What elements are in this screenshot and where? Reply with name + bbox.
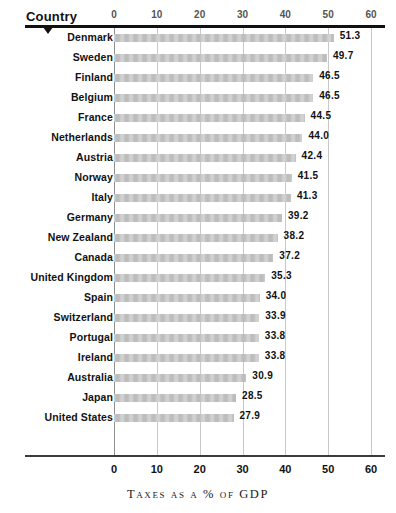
category-label: Finland [75,71,113,83]
bar-value-label: 33.9 [265,310,286,321]
bottom-tick-label-30: 30 [236,463,248,475]
chart-header: Country 0102030405060 [0,0,396,26]
bar [114,134,302,142]
bar-value-label: 41.3 [297,190,318,201]
bar-row: Italy41.3 [0,188,396,208]
bar [114,74,313,82]
bar [114,234,278,242]
category-label: Ireland [78,351,113,363]
category-label: Portugal [70,331,113,343]
bottom-tick-label-60: 60 [365,463,377,475]
bar-value-label: 42.4 [302,150,323,161]
bar-row: Norway41.5 [0,168,396,188]
bar-row: Netherlands44.0 [0,128,396,148]
category-label: Australia [67,371,113,383]
top-tick-label-60: 60 [365,9,376,20]
bottom-tick-label-10: 10 [151,463,163,475]
category-label: Japan [82,391,113,403]
bar-row: Belgium46.5 [0,88,396,108]
bottom-axis-rule [25,455,385,457]
bar-value-label: 34.0 [266,290,287,301]
bar-value-label: 33.8 [265,330,286,341]
bar-value-label: 44.5 [311,110,332,121]
bar [114,294,260,302]
category-label: Italy [91,191,113,203]
category-label: Sweden [73,51,113,63]
bar [114,274,265,282]
bar-value-label: 46.5 [319,90,340,101]
category-label: Belgium [71,91,113,103]
bar-value-label: 49.7 [333,50,354,61]
x-axis-title: Taxes as a % of GDP [0,487,396,502]
bar-value-label: 44.0 [308,130,329,141]
bottom-tick-label-50: 50 [322,463,334,475]
bar-row: Switzerland33.9 [0,308,396,328]
bar [114,54,327,62]
bar-row: Sweden49.7 [0,48,396,68]
row-axis-title: Country [26,9,77,24]
bar-row: Australia30.9 [0,368,396,388]
bar-value-label: 37.2 [279,250,300,261]
bar [114,194,291,202]
category-label: Canada [74,251,113,263]
tax-gdp-bar-chart: Country 0102030405060 Denmark51.3Sweden4… [0,0,396,513]
bar [114,254,273,262]
bar-row: Finland46.5 [0,68,396,88]
bar-value-label: 33.8 [265,350,286,361]
bar-row: New Zealand38.2 [0,228,396,248]
category-label: Austria [76,151,113,163]
top-tick-label-10: 10 [151,9,162,20]
top-tick-label-50: 50 [323,9,334,20]
category-label: Switzerland [54,311,113,323]
bar [114,374,246,382]
category-label: Denmark [67,31,113,43]
category-label: United Kingdom [31,271,113,283]
bar-value-label: 38.2 [284,230,305,241]
bar-row: Austria42.4 [0,148,396,168]
bar-row: United States27.9 [0,408,396,428]
bar [114,414,234,422]
bottom-tick-label-40: 40 [279,463,291,475]
bar-row: Denmark51.3 [0,28,396,48]
top-tick-label-0: 0 [111,9,117,20]
bar [114,394,236,402]
bottom-tick-label-0: 0 [111,463,117,475]
bar-value-label: 30.9 [252,370,273,381]
top-tick-label-30: 30 [237,9,248,20]
bar [114,94,313,102]
bar-row: Spain34.0 [0,288,396,308]
bar-value-label: 39.2 [288,210,309,221]
bar-row: France44.5 [0,108,396,128]
bar-row: Canada37.2 [0,248,396,268]
bar [114,34,334,42]
category-label: Norway [74,171,113,183]
category-label: United States [45,411,113,423]
bar-value-label: 51.3 [340,30,361,41]
bar-value-label: 28.5 [242,390,263,401]
bar-rows: Denmark51.3Sweden49.7Finland46.5Belgium4… [0,28,396,428]
bar [114,114,305,122]
category-label: Spain [84,291,113,303]
bottom-tick-label-20: 20 [194,463,206,475]
bar-value-label: 27.9 [240,410,261,421]
bar-row: Germany39.2 [0,208,396,228]
category-label: Netherlands [51,131,113,143]
category-label: France [78,111,113,123]
bar [114,334,259,342]
bar-row: Portugal33.8 [0,328,396,348]
bar-value-label: 35.3 [271,270,292,281]
bar-row: United Kingdom35.3 [0,268,396,288]
plot-area: Denmark51.3Sweden49.7Finland46.5Belgium4… [0,28,396,455]
bar [114,214,282,222]
category-label: Germany [67,211,113,223]
bar [114,354,259,362]
bar-value-label: 46.5 [319,70,340,81]
category-label: New Zealand [48,231,113,243]
bar [114,174,292,182]
bar [114,154,296,162]
bar-value-label: 41.5 [298,170,319,181]
top-tick-label-20: 20 [194,9,205,20]
bar [114,314,259,322]
bar-row: Ireland33.8 [0,348,396,368]
top-tick-label-40: 40 [280,9,291,20]
